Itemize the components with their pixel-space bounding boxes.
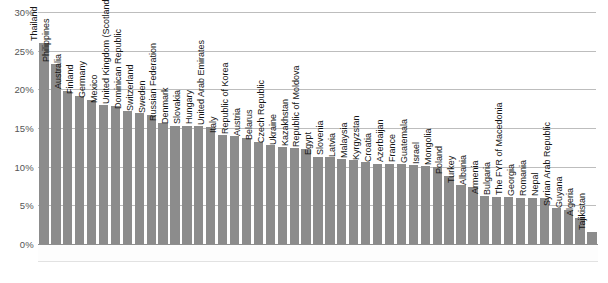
bar-slot[interactable]: Slovenia xyxy=(325,12,334,244)
y-axis-tick-label: 10% xyxy=(14,161,34,172)
bar[interactable] xyxy=(242,138,251,244)
bar-category-label: Egypt xyxy=(303,132,313,155)
bar[interactable] xyxy=(266,145,275,244)
bar[interactable] xyxy=(433,167,442,244)
bar-slot[interactable]: Philippines xyxy=(51,12,60,244)
y-axis-tick-label: 20% xyxy=(14,84,34,95)
bar[interactable] xyxy=(135,113,144,244)
bar-slot[interactable]: Guatemala xyxy=(409,12,418,244)
bar-category-label: The FYR of Macedonia xyxy=(494,102,504,195)
bar[interactable] xyxy=(397,164,406,244)
bar-slot[interactable]: Georgia xyxy=(516,12,525,244)
bar-slot[interactable]: Australia xyxy=(63,12,72,244)
bar[interactable] xyxy=(301,149,310,244)
bar[interactable] xyxy=(373,164,382,244)
bars-layer: ThailandPhilippinesAustraliaFinlandGerma… xyxy=(38,12,598,244)
bar-category-label: Nepal xyxy=(530,173,540,197)
bar-category-label: Hungary xyxy=(184,90,194,124)
bar-slot[interactable]: Poland xyxy=(444,12,453,244)
bar[interactable] xyxy=(468,187,477,244)
bar-category-label: Belarus xyxy=(244,109,254,140)
bar[interactable] xyxy=(278,147,287,244)
bar[interactable] xyxy=(528,198,537,244)
bar[interactable] xyxy=(587,232,596,244)
bar[interactable] xyxy=(552,208,561,244)
bar[interactable] xyxy=(99,105,108,244)
bar-slot[interactable]: Denmark xyxy=(170,12,179,244)
bar-slot[interactable]: Slovakia xyxy=(182,12,191,244)
bar[interactable] xyxy=(361,162,370,244)
bar[interactable] xyxy=(63,91,72,244)
bar-category-label: Republic of Moldova xyxy=(291,65,301,147)
bar[interactable] xyxy=(337,159,346,244)
bar[interactable] xyxy=(75,96,84,244)
bar[interactable] xyxy=(444,176,453,244)
bar-slot[interactable]: Azerbaijan xyxy=(385,12,394,244)
bar[interactable] xyxy=(325,157,334,244)
bar[interactable] xyxy=(516,198,525,244)
bar-category-label: Sweden xyxy=(137,80,147,113)
bar[interactable] xyxy=(349,160,358,244)
bar[interactable] xyxy=(51,64,60,244)
bar-slot[interactable]: Albania xyxy=(468,12,477,244)
bar[interactable] xyxy=(194,126,203,244)
bar[interactable] xyxy=(170,126,179,244)
bar-slot[interactable]: Tajikistan xyxy=(587,12,596,244)
bar-slot[interactable]: Armenia xyxy=(480,12,489,244)
bar-category-label: Malaysia xyxy=(339,123,349,159)
bar-category-label: Turkey xyxy=(446,156,456,183)
bar-category-label: Algeria xyxy=(565,188,575,216)
bar[interactable] xyxy=(421,166,430,244)
bar-category-label: Mexico xyxy=(89,74,99,103)
bar-category-label: Albania xyxy=(458,155,468,185)
bar-category-label: Kyrgyzstan xyxy=(351,116,361,161)
bar[interactable] xyxy=(409,165,418,244)
bar-slot[interactable]: Finland xyxy=(75,12,84,244)
bar[interactable] xyxy=(456,185,465,244)
bar-slot[interactable]: Republic of Moldova xyxy=(301,12,310,244)
bar[interactable] xyxy=(385,164,394,244)
bar-category-label: Guatemala xyxy=(399,119,409,163)
bar-category-label: Azerbaijan xyxy=(375,119,385,162)
bar[interactable] xyxy=(218,135,227,244)
bar-slot[interactable]: Turkey xyxy=(456,12,465,244)
bar-category-label: Republic of Korea xyxy=(220,62,230,134)
bar-slot[interactable]: Russian Federation xyxy=(158,12,167,244)
bar-category-label: Guyana xyxy=(554,176,564,208)
bar-slot[interactable]: Dominican Republic xyxy=(123,12,132,244)
bar-slot[interactable]: The FYR of Macedonia xyxy=(504,12,513,244)
bar-slot[interactable]: Switzerland xyxy=(135,12,144,244)
bar[interactable] xyxy=(504,197,513,244)
bar[interactable] xyxy=(158,123,167,244)
bar-category-label: Georgia xyxy=(506,164,516,196)
bar[interactable] xyxy=(206,127,215,244)
bar[interactable] xyxy=(254,142,263,244)
bar[interactable] xyxy=(480,196,489,244)
bar-category-label: United Arab Emirates xyxy=(196,40,206,125)
bar-category-label: Slovenia xyxy=(315,121,325,156)
bar[interactable] xyxy=(87,100,96,244)
bar-category-label: Philippines xyxy=(41,18,51,62)
y-axis-tick-label: 5% xyxy=(20,200,34,211)
bar[interactable] xyxy=(492,197,501,244)
bar-category-label: Tajikistan xyxy=(577,193,587,230)
bar-category-label: Croatia xyxy=(363,133,373,162)
bar-slot[interactable]: Romania xyxy=(528,12,537,244)
bar[interactable] xyxy=(313,157,322,244)
bar[interactable] xyxy=(111,106,120,244)
bar[interactable] xyxy=(182,126,191,244)
bar[interactable] xyxy=(123,111,132,244)
plot-area: ThailandPhilippinesAustraliaFinlandGerma… xyxy=(38,12,598,258)
bar[interactable] xyxy=(230,136,239,244)
bar[interactable] xyxy=(290,148,299,244)
bar-slot[interactable]: Mongolia xyxy=(433,12,442,244)
y-axis-tick-label: 15% xyxy=(14,123,34,134)
bar-slot[interactable]: Germany xyxy=(87,12,96,244)
bar[interactable] xyxy=(39,43,48,244)
bar-slot[interactable]: Kyrgyzstan xyxy=(361,12,370,244)
bar[interactable] xyxy=(147,115,156,244)
bar-slot[interactable]: Syrian Arab Republic xyxy=(552,12,561,244)
bar-category-label: Dominican Republic xyxy=(113,29,123,109)
bar-category-label: Armenia xyxy=(470,161,480,195)
y-axis: 0%5%10%15%20%25%30% xyxy=(0,0,38,283)
